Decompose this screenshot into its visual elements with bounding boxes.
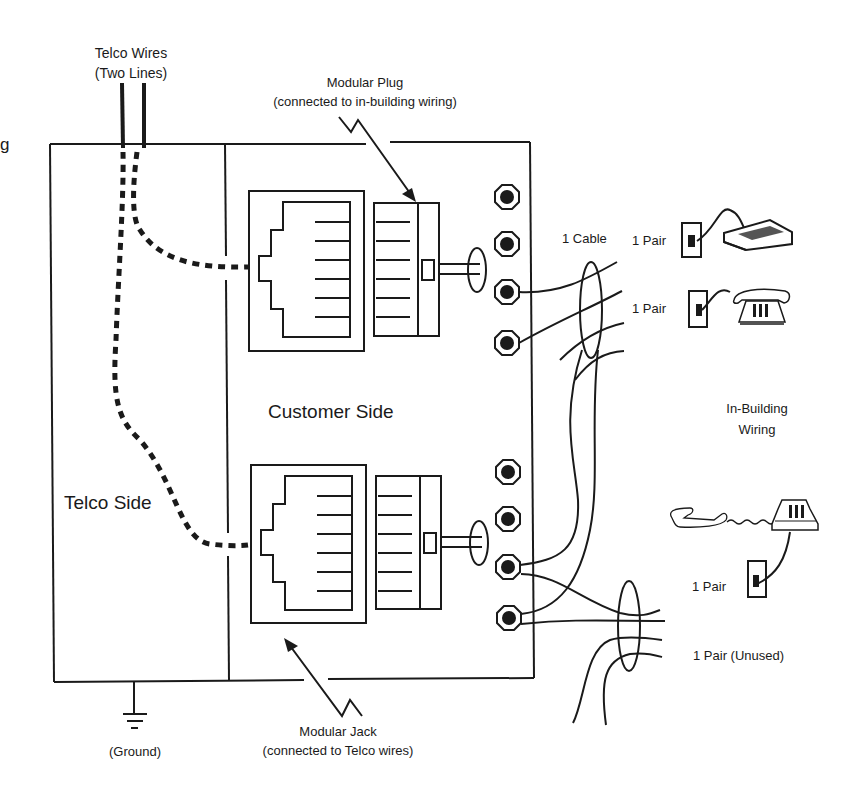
modem-icon: [724, 220, 792, 250]
ground-symbol: [123, 682, 147, 728]
screw-terminals-lower: [496, 460, 521, 630]
modular-jack-pointer-arrow: [284, 638, 362, 716]
ground-label: (Ground): [109, 744, 161, 759]
screw-terminal: [496, 507, 520, 531]
phone-pair-label: 1 Pair: [632, 301, 667, 316]
clipped-text-fragment: g: [0, 135, 9, 154]
screw-terminal: [495, 232, 519, 256]
lower-jack-assembly: [251, 465, 366, 623]
in-building-wiring-label: In-Building: [726, 401, 787, 416]
upper-cable-bundle: [519, 262, 624, 614]
modem-pair-label: 1 Pair: [632, 233, 667, 248]
telephone-icon-2: [772, 500, 818, 530]
off-hook-handset-icon: [671, 508, 727, 527]
upper-jack-assembly: [249, 191, 364, 351]
modular-plug-label: Modular Plug: [327, 75, 404, 90]
phone2-wall-jack: [748, 561, 766, 597]
telco-wires: [122, 83, 144, 148]
in-building-wiring-sublabel: Wiring: [739, 422, 776, 437]
telephone-icon: [734, 289, 790, 324]
telco-side-label: Telco Side: [64, 492, 152, 513]
nid-wiring-diagram: g Telco Wires (Two Lines) Customer Side …: [0, 0, 858, 804]
lower-cable-bundle: [521, 574, 665, 725]
upper-modular-plug: [374, 203, 486, 336]
modular-jack-label: Modular Jack: [299, 724, 377, 739]
screw-terminal: [496, 555, 520, 579]
modular-plug-pointer-arrow: [339, 117, 416, 202]
screw-terminals-upper: [495, 185, 519, 355]
screw-terminal: [495, 331, 519, 355]
customer-side-label: Customer Side: [268, 401, 394, 422]
phone2-pair-label: 1 Pair: [692, 579, 727, 594]
lower-modular-plug: [376, 476, 488, 609]
phone2-cord: [757, 532, 790, 584]
screw-terminal: [495, 185, 519, 209]
modular-plug-sublabel: (connected to in-building wiring): [273, 94, 457, 109]
one-cable-label: 1 Cable: [562, 231, 607, 246]
screw-terminal: [495, 280, 519, 304]
unused-pair-label: 1 Pair (Unused): [693, 648, 784, 663]
telco-wires-sublabel: (Two Lines): [95, 65, 167, 81]
screw-terminal: [496, 460, 520, 484]
modular-jack-sublabel: (connected to Telco wires): [263, 743, 414, 758]
screw-terminal: [497, 606, 521, 630]
telco-wires-label: Telco Wires: [95, 45, 167, 61]
